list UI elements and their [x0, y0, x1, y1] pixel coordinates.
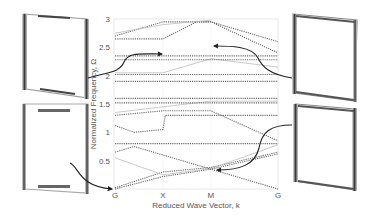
band-line [115, 115, 278, 132]
x-axis-label: Reduced Wave Vector, k [152, 201, 240, 210]
mode-shape-bottom-left [22, 104, 89, 194]
band-line [115, 22, 278, 53]
band-line [115, 59, 278, 73]
dispersion-figure: 0.511.522.53 GXMG Reduced Wave Vector, k… [0, 0, 372, 215]
y-tick-label: 1 [106, 128, 111, 137]
mode-shape-top-right [292, 14, 357, 102]
y-tick-label: 1.5 [99, 100, 111, 109]
arrow-top-right [214, 46, 292, 78]
x-tick-label: G [275, 191, 281, 200]
x-axis: GXMG [112, 191, 281, 200]
y-tick-label: 0.5 [99, 157, 111, 166]
x-tick-label: M [208, 191, 215, 200]
band-line [115, 169, 278, 189]
band-curves [115, 19, 278, 189]
y-axis: 0.511.522.53 [99, 15, 111, 166]
mode-shape-bottom-right [293, 104, 357, 191]
y-tick-label: 2.5 [99, 43, 111, 52]
mode-shape-top-left [22, 14, 89, 99]
band-line [115, 147, 278, 170]
y-tick-label: 3 [106, 15, 111, 24]
x-tick-label: G [112, 191, 118, 200]
x-tick-label: X [160, 191, 166, 200]
arrow-bottom-right [217, 125, 292, 170]
plot-area [114, 19, 278, 189]
y-axis-label: Normalized Frequency, Ω [89, 59, 98, 149]
